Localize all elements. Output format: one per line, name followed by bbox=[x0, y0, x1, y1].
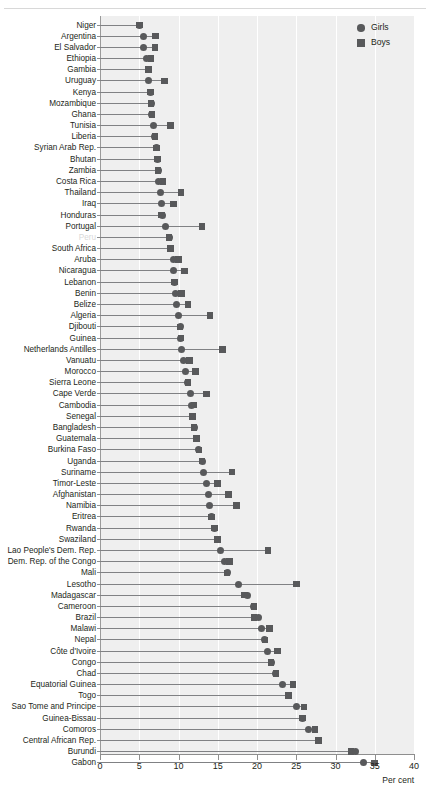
plot-row: Iraq bbox=[0, 198, 430, 209]
plot-row: Netherlands Antilles bbox=[0, 344, 430, 355]
boys-marker bbox=[266, 625, 273, 632]
row-label-dem-rep-of-the-congo: Dem. Rep. of the Congo bbox=[8, 556, 96, 567]
girls-marker bbox=[136, 22, 143, 29]
plot-row: Swaziland bbox=[0, 534, 430, 545]
x-tick-0 bbox=[100, 755, 101, 760]
x-tick-25 bbox=[296, 755, 297, 760]
row-label-vanuatu: Vanuatu bbox=[66, 355, 96, 366]
girls-marker bbox=[203, 480, 210, 487]
row-label-bhutan: Bhutan bbox=[70, 154, 96, 165]
boys-marker bbox=[290, 681, 297, 688]
x-axis-title: Per cent bbox=[382, 775, 414, 785]
girls-marker bbox=[166, 234, 173, 241]
row-label-liberia: Liberia bbox=[71, 131, 96, 142]
row-label-bangladesh: Bangladesh bbox=[53, 422, 96, 433]
boys-marker bbox=[178, 290, 185, 297]
row-connector bbox=[100, 651, 277, 652]
boys-marker bbox=[199, 223, 206, 230]
row-label-uganda: Uganda bbox=[67, 456, 96, 467]
row-connector bbox=[100, 25, 139, 26]
row-label-tunisia: Tunisia bbox=[70, 120, 96, 131]
girls-marker bbox=[155, 167, 162, 174]
boys-marker bbox=[161, 78, 168, 85]
plot-row: Bangladesh bbox=[0, 422, 430, 433]
row-connector bbox=[100, 606, 254, 607]
girls-marker bbox=[170, 267, 177, 274]
plot-row: Rwanda bbox=[0, 523, 430, 534]
plot-row: Tunisia bbox=[0, 120, 430, 131]
row-connector bbox=[100, 740, 318, 741]
row-label-mozambique: Mozambique bbox=[49, 98, 96, 109]
plot-row: Vanuatu bbox=[0, 355, 430, 366]
plot-row: Cameroon bbox=[0, 601, 430, 612]
row-label-south-africa: South Africa bbox=[52, 243, 96, 254]
plot-row: Lao People's Dem. Rep. bbox=[0, 545, 430, 556]
plot-row: Namibia bbox=[0, 500, 430, 511]
girls-marker bbox=[159, 212, 166, 219]
plot-row: Dem. Rep. of the Congo bbox=[0, 556, 430, 567]
x-tick-label-10: 10 bbox=[173, 761, 183, 771]
plot-row: Lesotho bbox=[0, 579, 430, 590]
row-connector bbox=[100, 114, 152, 115]
row-label-eritrea: Eritrea bbox=[72, 511, 96, 522]
plot-row: Nepal bbox=[0, 634, 430, 645]
boys-marker bbox=[214, 480, 221, 487]
row-label-lesotho: Lesotho bbox=[67, 579, 96, 590]
girls-marker bbox=[299, 715, 306, 722]
girls-marker bbox=[177, 335, 184, 342]
plot-row: Suriname bbox=[0, 467, 430, 478]
plot-row: Lebanon bbox=[0, 277, 430, 288]
boys-marker bbox=[181, 268, 188, 275]
row-connector bbox=[100, 639, 265, 640]
row-label-equatorial-guinea: Equatorial Guinea bbox=[30, 679, 96, 690]
x-tick-label-0: 0 bbox=[97, 761, 102, 771]
row-connector bbox=[100, 282, 175, 283]
girls-marker bbox=[205, 491, 212, 498]
row-label-guinea-bissau: Guinea-Bissau bbox=[42, 713, 96, 724]
row-label-morocco: Morocco bbox=[65, 366, 96, 377]
row-label-djibouti: Djibouti bbox=[69, 321, 96, 332]
plot-row: Comoros bbox=[0, 724, 430, 735]
girls-marker bbox=[315, 737, 322, 744]
plot-row: Guatemala bbox=[0, 433, 430, 444]
girls-marker bbox=[255, 614, 262, 621]
row-label-chad: Chad bbox=[76, 668, 96, 679]
plot-row: Sierra Leone bbox=[0, 377, 430, 388]
plot-row: Brazil bbox=[0, 612, 430, 623]
row-connector bbox=[100, 170, 158, 171]
row-label-congo: Congo bbox=[72, 657, 96, 668]
row-connector bbox=[100, 405, 194, 406]
plot-row: Peru bbox=[0, 232, 430, 243]
plot-row: Djibouti bbox=[0, 321, 430, 332]
row-connector bbox=[100, 315, 210, 316]
row-connector bbox=[100, 662, 271, 663]
row-label-senegal: Senegal bbox=[66, 411, 96, 422]
boys-marker bbox=[192, 368, 199, 375]
row-label-thailand: Thailand bbox=[65, 187, 96, 198]
row-connector bbox=[100, 561, 230, 562]
girls-marker bbox=[235, 581, 242, 588]
row-label-aruba: Aruba bbox=[74, 254, 96, 265]
plot-row: Niger bbox=[0, 20, 430, 31]
plot-row: South Africa bbox=[0, 243, 430, 254]
plot-row: Guinea-Bissau bbox=[0, 713, 430, 724]
plot-row: Portugal bbox=[0, 221, 430, 232]
row-connector bbox=[100, 248, 171, 249]
row-connector bbox=[100, 595, 248, 596]
plot-row: Belize bbox=[0, 299, 430, 310]
row-connector bbox=[100, 539, 218, 540]
square-marker-icon bbox=[357, 39, 365, 47]
girls-marker bbox=[352, 748, 359, 755]
row-connector bbox=[100, 673, 276, 674]
x-tick-label-30: 30 bbox=[330, 761, 340, 771]
row-connector bbox=[100, 215, 163, 216]
row-label-timor-leste: Timor-Leste bbox=[53, 478, 96, 489]
plot-row: Algeria bbox=[0, 310, 430, 321]
girls-marker bbox=[206, 502, 213, 509]
girls-marker bbox=[172, 290, 179, 297]
girls-marker bbox=[360, 759, 367, 766]
row-label-zambia: Zambia bbox=[69, 165, 96, 176]
boys-marker bbox=[274, 648, 281, 655]
plot-row: Morocco bbox=[0, 366, 430, 377]
girls-marker bbox=[199, 458, 206, 465]
